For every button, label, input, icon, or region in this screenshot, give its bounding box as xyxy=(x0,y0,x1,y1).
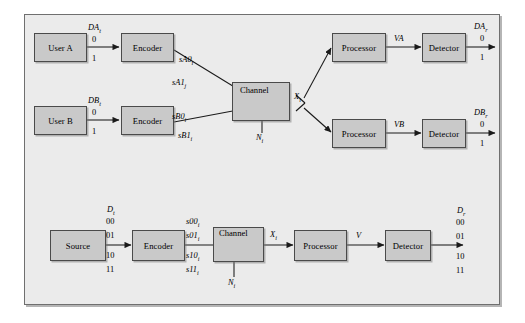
label-s01: s01i xyxy=(186,231,199,242)
label-da-t: DAt xyxy=(88,23,101,34)
label-v: V xyxy=(356,231,361,240)
block-detector-bottom-label: Detector xyxy=(393,241,423,251)
label-sa1: sA1j xyxy=(172,78,186,89)
values-d-t-00: 00 xyxy=(106,216,114,228)
block-encoder-a[interactable]: Encoder xyxy=(121,33,174,62)
values-da-r-0: 0 xyxy=(480,33,484,45)
block-detector-b[interactable]: Detector xyxy=(422,119,466,148)
block-detector-a-label: Detector xyxy=(429,43,459,53)
label-n-i-bottom: Ni xyxy=(228,278,235,289)
label-vb: VB xyxy=(394,120,404,129)
arrow-x-to-processorb xyxy=(304,108,331,132)
values-db-r-1: 1 xyxy=(480,138,484,150)
block-processor-b[interactable]: Processor xyxy=(332,119,386,148)
label-va: VA xyxy=(394,34,404,43)
label-s00: s00i xyxy=(186,217,199,228)
block-processor-b-label: Processor xyxy=(342,129,376,139)
label-db-r: DBr xyxy=(474,108,488,119)
block-processor-bottom-label: Processor xyxy=(303,241,337,251)
label-s10: s10i xyxy=(186,251,199,262)
block-encoder-a-label: Encoder xyxy=(133,43,162,53)
block-processor-a-label: Processor xyxy=(342,43,376,53)
label-db-t: DBt xyxy=(88,96,101,107)
label-n-i-top: Ni xyxy=(256,133,263,144)
label-db-t-base: DB xyxy=(88,96,99,105)
values-db-t-1: 1 xyxy=(92,126,96,138)
arrow-x-to-processora xyxy=(304,48,331,98)
block-channel-top-label: Channel xyxy=(240,85,269,95)
label-d-r: Dr xyxy=(457,206,465,217)
block-encoder-bottom-label: Encoder xyxy=(144,241,173,251)
block-user-b[interactable]: User B xyxy=(34,106,87,135)
values-da-r-1: 1 xyxy=(480,52,484,64)
values-d-t-01: 01 xyxy=(106,230,114,242)
values-db-r-0: 0 xyxy=(480,119,484,131)
label-da-t-sub: t xyxy=(99,27,101,34)
block-encoder-b[interactable]: Encoder xyxy=(121,106,174,135)
block-detector-b-label: Detector xyxy=(429,129,459,139)
block-detector-a[interactable]: Detector xyxy=(422,33,466,62)
block-processor-bottom[interactable]: Processor xyxy=(294,230,347,261)
values-da-t-1: 1 xyxy=(92,53,96,65)
label-da-r: DAr xyxy=(474,22,488,33)
values-d-r-01: 01 xyxy=(456,231,464,243)
label-da-t-base: DA xyxy=(88,23,99,32)
block-user-b-label: User B xyxy=(48,116,73,126)
label-d-t: Dt xyxy=(107,205,115,216)
values-d-t-11: 11 xyxy=(106,264,114,276)
values-db-t-0: 0 xyxy=(92,107,96,119)
block-channel-bottom-label: Channel xyxy=(219,228,248,238)
label-sb1: sB1i xyxy=(178,131,192,142)
values-da-t-0: 0 xyxy=(92,34,96,46)
block-encoder-bottom[interactable]: Encoder xyxy=(132,230,185,261)
label-sa0: sA0i xyxy=(179,55,193,66)
values-d-r-10: 10 xyxy=(456,251,464,263)
block-encoder-b-label: Encoder xyxy=(133,116,162,126)
label-db-t-sub: t xyxy=(99,100,101,107)
label-x-i-top: Xi xyxy=(294,92,301,103)
values-d-r-11: 11 xyxy=(456,265,464,277)
values-d-r-00: 00 xyxy=(456,217,464,229)
block-processor-a[interactable]: Processor xyxy=(332,33,386,62)
values-d-t-10: 10 xyxy=(106,250,114,262)
label-x-i-bottom: Xi xyxy=(270,230,277,241)
block-source-label: Source xyxy=(66,241,90,251)
label-sb0: sB0i xyxy=(172,112,186,123)
block-user-a[interactable]: User A xyxy=(34,33,87,62)
label-s11: s11i xyxy=(186,265,199,276)
figure-canvas: User A Encoder User B Encoder Channel Pr… xyxy=(0,0,525,323)
block-source[interactable]: Source xyxy=(50,230,106,261)
block-user-a-label: User A xyxy=(48,43,73,53)
block-detector-bottom[interactable]: Detector xyxy=(385,230,431,261)
